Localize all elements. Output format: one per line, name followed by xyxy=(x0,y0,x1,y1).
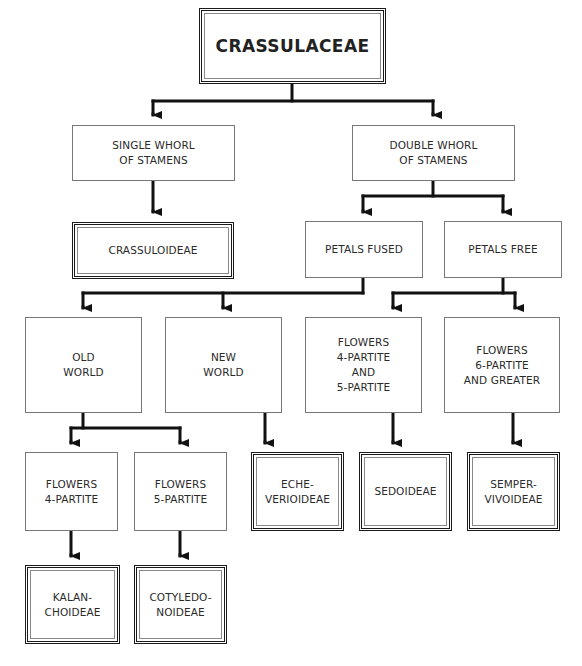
node-label: CRASSULOIDEAE xyxy=(108,243,197,258)
node-label: FLOWERS 4-PARTITE AND 5-PARTITE xyxy=(337,335,390,395)
node-cotyledonoideae: COTYLEDO- NOIDEAE xyxy=(134,565,227,644)
node-single-whorl: SINGLE WHORL OF STAMENS xyxy=(72,125,235,181)
node-flowers-5-partite: FLOWERS 5-PARTITE xyxy=(134,452,227,531)
node-flowers-4-partite: FLOWERS 4-PARTITE xyxy=(25,452,118,531)
node-label: COTYLEDO- NOIDEAE xyxy=(149,590,211,620)
node-label: PETALS FREE xyxy=(468,242,537,257)
node-label: KALAN- CHOIDEAE xyxy=(45,590,101,620)
node-label: FLOWERS 5-PARTITE xyxy=(154,477,207,507)
node-new-world: NEW WORLD xyxy=(165,317,282,413)
crassulaceae-diagram: CRASSULACEAE SINGLE WHORL OF STAMENS DOU… xyxy=(0,0,582,666)
node-sempervivoideae: SEMPER- VIVOIDEAE xyxy=(467,452,560,531)
node-label: FLOWERS 4-PARTITE xyxy=(45,477,98,507)
node-label: CRASSULACEAE xyxy=(216,39,370,54)
node-label: FLOWERS 6-PARTITE AND GREATER xyxy=(464,343,540,388)
node-label: SEDOIDEAE xyxy=(374,484,436,499)
node-double-whorl: DOUBLE WHORL OF STAMENS xyxy=(352,125,515,181)
node-label: PETALS FUSED xyxy=(325,242,403,257)
node-label: OLD WORLD xyxy=(63,350,103,380)
node-flowers-6-partite: FLOWERS 6-PARTITE AND GREATER xyxy=(444,317,560,413)
node-kalanchoideae: KALAN- CHOIDEAE xyxy=(25,565,120,644)
node-flowers-4-5-partite: FLOWERS 4-PARTITE AND 5-PARTITE xyxy=(305,317,422,413)
node-label: DOUBLE WHORL OF STAMENS xyxy=(390,138,478,168)
node-label: NEW WORLD xyxy=(203,350,243,380)
node-sedoideae: SEDOIDEAE xyxy=(359,452,452,531)
node-petals-free: PETALS FREE xyxy=(444,221,562,278)
node-crassulaceae: CRASSULACEAE xyxy=(199,8,386,84)
node-petals-fused: PETALS FUSED xyxy=(305,221,423,278)
node-old-world: OLD WORLD xyxy=(25,317,142,413)
node-crassuloideae: CRASSULOIDEAE xyxy=(72,222,234,279)
node-echeverioideae: ECHE- VERIOIDEAE xyxy=(251,452,344,531)
node-label: SINGLE WHORL OF STAMENS xyxy=(112,138,194,168)
node-label: ECHE- VERIOIDEAE xyxy=(265,477,330,507)
node-label: SEMPER- VIVOIDEAE xyxy=(484,477,542,507)
